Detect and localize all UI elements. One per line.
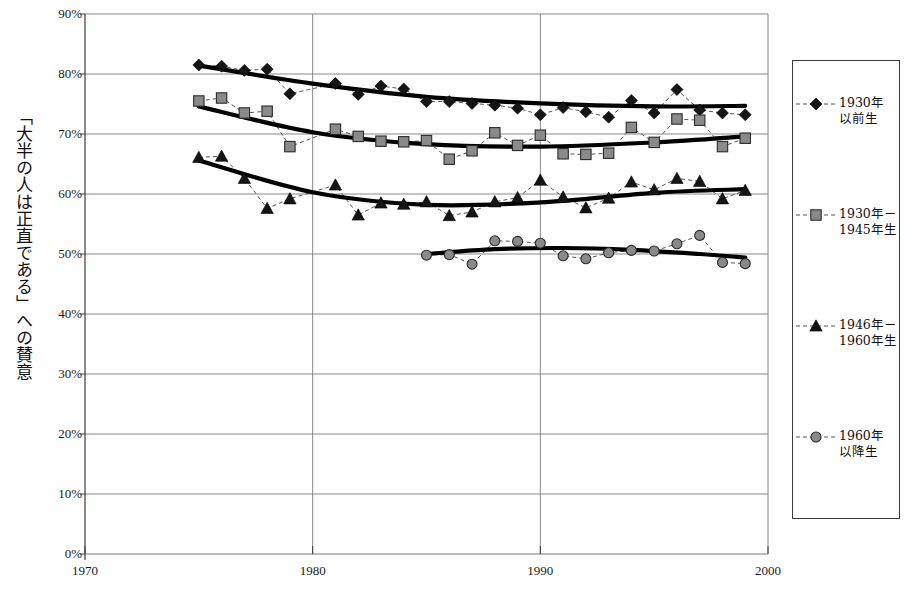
data-point-diamond (716, 107, 728, 119)
data-point-square (717, 141, 727, 151)
data-point-triangle (810, 320, 822, 331)
data-point-diamond (261, 63, 273, 75)
x-tick-label: 1970 (50, 563, 120, 579)
data-point-diamond (193, 59, 205, 71)
data-point-circle (558, 251, 568, 261)
data-point-square (512, 140, 522, 150)
x-tick-label: 2000 (733, 563, 803, 579)
data-point-triangle (215, 150, 227, 161)
data-point-square (285, 141, 295, 151)
chart-legend: 1930年 以前生1930年－ 1945年生1946年－ 1960年生1960年… (792, 60, 900, 519)
legend-label: 1960年 以降生 (839, 426, 884, 460)
data-point-square (467, 146, 477, 156)
legend-marker-square-icon (793, 204, 839, 244)
data-point-triangle (534, 174, 546, 185)
data-point-circle (811, 432, 821, 442)
x-tick-label: 1980 (278, 563, 348, 579)
chart-root: 「大半の人は正直である」への賛意 0%10%20%30%40%50%60%70%… (0, 0, 909, 606)
series-trend-line (199, 106, 745, 146)
data-point-square (626, 122, 636, 132)
data-point-square (399, 137, 409, 147)
data-point-triangle (625, 176, 637, 187)
legend-label: 1930年 以前生 (839, 93, 884, 127)
data-point-square (535, 130, 545, 140)
data-point-square (444, 154, 454, 164)
legend-marker-triangle-icon (793, 315, 839, 355)
data-point-circle (422, 250, 432, 260)
data-point-circle (672, 239, 682, 249)
data-point-circle (604, 248, 614, 258)
data-point-triangle (511, 191, 523, 202)
data-point-circle (444, 250, 454, 260)
data-point-square (353, 131, 363, 141)
data-point-circle (490, 236, 500, 246)
data-point-triangle (671, 172, 683, 183)
data-point-circle (740, 259, 750, 269)
data-point-square (581, 149, 591, 159)
legend-marker-diamond-icon (793, 93, 839, 133)
data-point-triangle (329, 179, 341, 190)
data-point-square (695, 115, 705, 125)
series-diamond (193, 59, 751, 123)
data-point-square (239, 108, 249, 118)
data-point-diamond (580, 106, 592, 118)
data-point-diamond (603, 111, 615, 123)
data-point-triangle (261, 202, 273, 213)
data-point-circle (649, 246, 659, 256)
legend-item-diamond[interactable]: 1930年 以前生 (793, 93, 901, 139)
x-tick-label: 1990 (505, 563, 575, 579)
data-point-square (421, 135, 431, 145)
data-point-diamond (534, 109, 546, 121)
data-point-diamond (739, 109, 751, 121)
data-point-circle (467, 259, 477, 269)
legend-item-square[interactable]: 1930年－ 1945年生 (793, 204, 901, 250)
data-point-diamond (284, 88, 296, 100)
data-point-square (740, 133, 750, 143)
chart-plot-area (0, 0, 909, 606)
data-point-square (558, 149, 568, 159)
data-point-triangle (580, 202, 592, 213)
legend-item-circle[interactable]: 1960年 以降生 (793, 426, 901, 472)
data-point-square (649, 137, 659, 147)
legend-label: 1946年－ 1960年生 (839, 315, 897, 349)
data-point-triangle (648, 184, 660, 195)
data-point-square (811, 210, 821, 220)
data-point-triangle (466, 206, 478, 217)
data-point-circle (695, 230, 705, 240)
data-point-square (490, 128, 500, 138)
data-point-circle (581, 254, 591, 264)
data-point-square (262, 106, 272, 116)
data-point-circle (513, 236, 523, 246)
data-point-square (376, 136, 386, 146)
data-point-square (194, 96, 204, 106)
data-point-triangle (193, 151, 205, 162)
data-point-triangle (352, 209, 364, 220)
data-point-triangle (420, 196, 432, 207)
series-trend-line (199, 160, 745, 205)
legend-marker-circle-icon (793, 426, 839, 466)
data-point-circle (626, 245, 636, 255)
data-point-diamond (810, 98, 822, 110)
data-point-square (672, 114, 682, 124)
series-triangle (193, 150, 752, 221)
data-point-square (216, 93, 226, 103)
data-point-square (603, 148, 613, 158)
data-point-square (330, 124, 340, 134)
data-point-circle (717, 257, 727, 267)
series-circle (422, 230, 751, 269)
data-point-triangle (557, 191, 569, 202)
data-point-circle (535, 238, 545, 248)
legend-item-triangle[interactable]: 1946年－ 1960年生 (793, 315, 901, 361)
legend-label: 1930年－ 1945年生 (839, 204, 897, 238)
